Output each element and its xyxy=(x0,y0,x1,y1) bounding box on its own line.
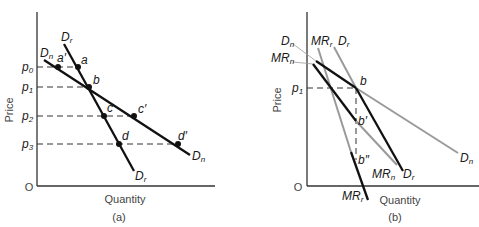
label-c: c xyxy=(107,101,113,115)
panel-b-label-mrr-bottom: MRr xyxy=(342,189,364,204)
label-p3: p3 xyxy=(21,137,34,152)
label-b: b xyxy=(93,73,100,87)
panel-a-caption: (a) xyxy=(112,211,125,223)
panel-b-label-p1: p1 xyxy=(291,81,303,96)
panel-b-caption: (b) xyxy=(388,211,401,223)
label-d-prime: d′ xyxy=(178,129,188,143)
panel-b-label-dn-top: Dn xyxy=(281,34,295,49)
panel-a-origin: O xyxy=(25,181,34,193)
panel-b-label-mrn-top: MRn xyxy=(271,51,295,66)
panel-a-dr-curve xyxy=(64,44,134,171)
panel-b-mrr-gray-upper xyxy=(318,48,351,152)
label-p0: p0 xyxy=(21,60,34,75)
point-c-prime xyxy=(131,113,137,119)
panel-a-y-label: Price xyxy=(3,97,15,122)
label-dn-bottom: Dn xyxy=(192,149,206,164)
panel-a-x-label: Quantity xyxy=(105,193,146,205)
label-dr-bottom: Dr xyxy=(135,169,147,184)
panel-b-y-label: Price xyxy=(271,87,283,112)
panel-b: p1 Dn MRn MRr Dr Dn MRn Dr MRr b b′ b″ P… xyxy=(271,12,479,223)
panel-b-label-mrn-bottom: MRn xyxy=(372,167,396,182)
label-p2: p2 xyxy=(21,109,34,124)
panel-b-label-dr-bottom: Dr xyxy=(403,167,415,182)
panel-b-origin: O xyxy=(294,181,303,193)
panel-b-label-b-prime: b′ xyxy=(358,114,368,128)
panel-b-label-dn-bottom: Dn xyxy=(460,151,474,166)
panel-b-mrn-leader xyxy=(293,62,313,64)
panel-b-label-b: b xyxy=(360,74,367,88)
panel-a: p0 p1 p2 p3 Dr Dn Dr Dn a a′ b c c′ d d′… xyxy=(3,12,215,223)
panel-b-label-b-double-prime: b″ xyxy=(358,153,370,167)
label-a-prime: a′ xyxy=(57,51,67,65)
kinked-demand-diagram: p0 p1 p2 p3 Dr Dn Dr Dn a a′ b c c′ d d′… xyxy=(0,0,479,227)
label-d: d xyxy=(122,129,129,143)
panel-b-label-dr-top: Dr xyxy=(338,34,350,49)
label-dn-top: Dn xyxy=(40,46,54,61)
label-dr-top: Dr xyxy=(61,30,73,45)
label-p1: p1 xyxy=(21,80,33,95)
panel-b-label-mrr-top: MRr xyxy=(311,34,333,49)
label-a: a xyxy=(81,53,88,67)
label-c-prime: c′ xyxy=(138,102,147,116)
point-b xyxy=(86,84,92,90)
panel-b-dn-gray-lower xyxy=(356,88,458,153)
panel-b-x-label: Quantity xyxy=(380,194,421,206)
